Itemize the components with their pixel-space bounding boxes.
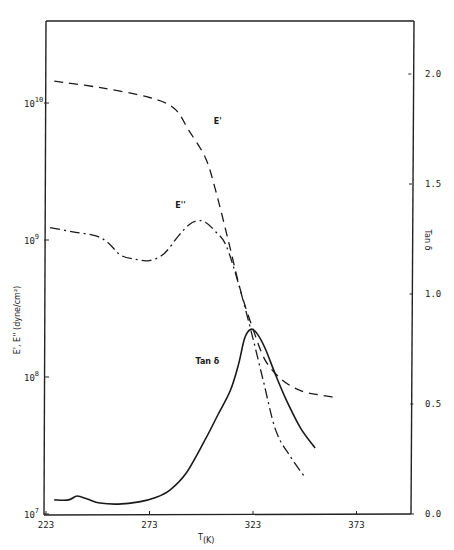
right-y-tick-label: 2.0: [425, 69, 441, 79]
curve-labels: E'E''Tan δ: [175, 117, 221, 367]
left-y-tick-label: 1010: [24, 96, 43, 109]
left-y-tick-label: 109: [24, 233, 39, 246]
x-axis-title: T(K): [197, 533, 214, 545]
left-y-tick-label: 108: [24, 370, 39, 383]
right-y-tick-label: 0.5: [425, 399, 441, 409]
plot-frame: [44, 21, 414, 515]
curve-label: E': [214, 117, 222, 126]
series-tan: [54, 329, 315, 504]
curve-label: E'': [175, 201, 185, 210]
x-tick-label: 323: [245, 520, 261, 530]
right-y-tick-label: 1.0: [425, 289, 441, 299]
right-y-axis-title: Tan δ: [423, 229, 432, 251]
curve-label: Tan δ: [196, 357, 220, 366]
x-tick-label: 373: [348, 520, 364, 530]
x-tick-label: 273: [141, 520, 157, 530]
chart: 223273323373 1010109108107 0.00.51.01.52…: [0, 0, 454, 550]
x-tick-label: 223: [38, 520, 54, 530]
series-e-storage: [54, 81, 336, 398]
left-y-tick-label: 107: [24, 507, 39, 520]
series-e-loss: [50, 221, 305, 477]
left-y-axis-title: E', E'' (dyne/cm²): [13, 286, 22, 354]
right-y-tick-label: 0.0: [425, 509, 441, 519]
right-y-tick-label: 1.5: [425, 179, 441, 189]
series-lines: [50, 81, 336, 504]
